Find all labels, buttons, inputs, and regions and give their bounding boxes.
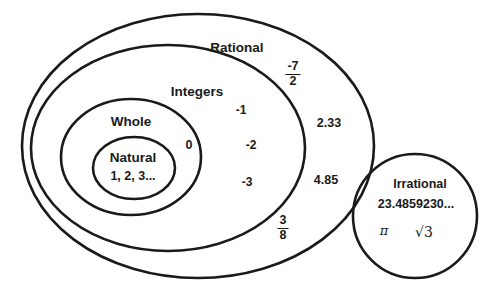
venn-diagram: Rational Integers Whole Natural 1, 2, 3.… — [0, 0, 499, 295]
integers-set-ellipse — [31, 45, 305, 251]
venn-shapes-svg — [0, 0, 499, 295]
irrational-set-circle — [353, 154, 477, 278]
natural-set-ellipse — [93, 137, 175, 199]
whole-set-ellipse — [61, 99, 201, 215]
rational-set-ellipse — [22, 14, 374, 278]
